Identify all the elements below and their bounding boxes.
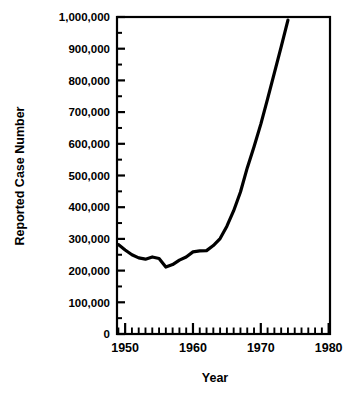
y-tick-label: 700,000	[68, 106, 110, 118]
x-tick-label: 1980	[315, 341, 343, 355]
x-axis-title: Year	[202, 371, 229, 385]
data-line	[118, 20, 288, 267]
x-tick-label: 1970	[247, 341, 275, 355]
y-tick-label: 800,000	[68, 75, 110, 87]
x-tick-label: 1960	[179, 341, 207, 355]
y-tick-label: 400,000	[68, 201, 110, 213]
y-tick-label: 100,000	[68, 297, 110, 309]
x-axis-tick-labels: 1950196019701980	[111, 341, 342, 355]
y-tick-label: 0	[104, 328, 110, 340]
data-series-group	[118, 20, 288, 267]
chart-container: 0100,000200,000300,000400,000500,000600,…	[0, 0, 353, 396]
y-tick-label: 500,000	[68, 170, 110, 182]
y-tick-label: 600,000	[68, 138, 110, 150]
plot-frame	[117, 17, 330, 334]
plot-area-border	[117, 17, 330, 334]
y-axis-tick-labels: 0100,000200,000300,000400,000500,000600,…	[59, 11, 110, 340]
x-tick-label: 1950	[111, 341, 139, 355]
line-chart: 0100,000200,000300,000400,000500,000600,…	[0, 0, 353, 396]
y-tick-label: 200,000	[68, 265, 110, 277]
y-axis-ticks	[117, 17, 125, 334]
y-tick-label: 300,000	[68, 233, 110, 245]
y-axis-title: Reported Case Number	[13, 106, 27, 245]
y-tick-label: 1,000,000	[59, 11, 110, 23]
x-axis-ticks	[118, 323, 328, 334]
y-tick-label: 900,000	[68, 43, 110, 55]
